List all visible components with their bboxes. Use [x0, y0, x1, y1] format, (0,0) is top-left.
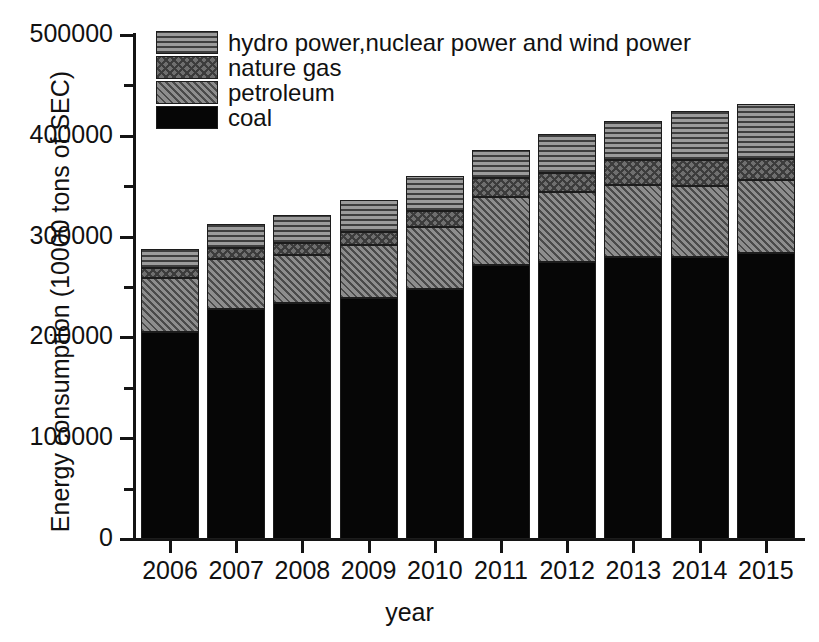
- legend-label: petroleum: [228, 81, 335, 105]
- bar-segment[interactable]: [406, 227, 464, 289]
- bar-segment[interactable]: [141, 268, 199, 278]
- y-axis-tick-minor: [124, 286, 135, 289]
- bar-2013[interactable]: [604, 121, 662, 539]
- legend-item[interactable]: petroleum: [156, 80, 691, 105]
- bar-2011[interactable]: [472, 150, 530, 539]
- y-axis-tick-minor: [124, 84, 135, 87]
- bar-segment[interactable]: [273, 243, 331, 255]
- bar-segment[interactable]: [340, 245, 398, 298]
- bar-2010[interactable]: [406, 176, 464, 539]
- bar-segment[interactable]: [207, 224, 265, 248]
- bar-segment[interactable]: [273, 215, 331, 243]
- y-axis-tick-minor: [124, 387, 135, 390]
- y-axis-tick-label: 200000: [30, 321, 113, 350]
- bar-segment[interactable]: [472, 150, 530, 178]
- y-axis-tick-major: [120, 336, 135, 339]
- x-axis-tick-label: 2015: [721, 556, 811, 585]
- legend-item[interactable]: hydro power,nuclear power and wind power: [156, 30, 691, 55]
- y-axis-tick-label: 400000: [30, 120, 113, 149]
- bar-segment[interactable]: [207, 309, 265, 539]
- legend-item[interactable]: nature gas: [156, 55, 691, 80]
- y-axis-tick-minor: [124, 185, 135, 188]
- bar-segment[interactable]: [273, 303, 331, 539]
- x-axis-tick: [632, 540, 635, 553]
- bar-segment[interactable]: [737, 180, 795, 253]
- x-axis-tick: [566, 540, 569, 553]
- bar-segment[interactable]: [737, 159, 795, 180]
- y-axis-tick-label: 500000: [30, 19, 113, 48]
- legend-label: nature gas: [228, 56, 341, 80]
- bar-2008[interactable]: [273, 215, 331, 539]
- bar-segment[interactable]: [604, 257, 662, 539]
- x-axis-tick: [235, 540, 238, 553]
- bar-2006[interactable]: [141, 249, 199, 539]
- bar-segment[interactable]: [604, 185, 662, 257]
- bar-segment[interactable]: [141, 332, 199, 539]
- legend-item[interactable]: coal: [156, 105, 691, 130]
- bar-segment[interactable]: [472, 265, 530, 539]
- x-axis-tick: [169, 540, 172, 553]
- legend-swatch-icon: [156, 81, 218, 104]
- bar-segment[interactable]: [737, 253, 795, 539]
- bar-segment[interactable]: [207, 259, 265, 309]
- bar-segment[interactable]: [671, 257, 729, 539]
- bar-segment[interactable]: [538, 134, 596, 173]
- y-axis-tick-major: [120, 236, 135, 239]
- bar-segment[interactable]: [406, 289, 464, 539]
- bar-2015[interactable]: [737, 104, 795, 539]
- bar-segment[interactable]: [340, 200, 398, 232]
- bar-segment[interactable]: [737, 104, 795, 159]
- legend-swatch-icon: [156, 31, 218, 54]
- bar-segment[interactable]: [671, 160, 729, 186]
- bar-segment[interactable]: [340, 298, 398, 539]
- bar-2012[interactable]: [538, 134, 596, 539]
- bar-segment[interactable]: [472, 197, 530, 265]
- y-axis-tick-major: [120, 135, 135, 138]
- y-axis-tick-major: [120, 437, 135, 440]
- x-axis-tick: [699, 540, 702, 553]
- bar-segment[interactable]: [472, 178, 530, 197]
- legend-swatch-icon: [156, 106, 218, 129]
- bar-segment[interactable]: [141, 278, 199, 332]
- legend-swatch-icon: [156, 56, 218, 79]
- bar-segment[interactable]: [538, 173, 596, 192]
- y-axis-tick-major: [120, 538, 135, 541]
- bar-2014[interactable]: [671, 111, 729, 539]
- bar-segment[interactable]: [141, 249, 199, 268]
- x-axis-tick: [434, 540, 437, 553]
- legend: hydro power,nuclear power and wind power…: [156, 30, 691, 130]
- x-axis-tick: [500, 540, 503, 553]
- bar-segment[interactable]: [340, 232, 398, 245]
- x-axis-tick: [765, 540, 768, 553]
- y-axis-tick-label: 100000: [30, 422, 113, 451]
- bar-segment[interactable]: [604, 160, 662, 185]
- legend-label: coal: [228, 106, 272, 130]
- y-axis-tick-major: [120, 34, 135, 37]
- legend-label: hydro power,nuclear power and wind power: [228, 31, 691, 55]
- y-axis-tick-label: 0: [99, 523, 113, 552]
- bar-2007[interactable]: [207, 224, 265, 539]
- y-axis-tick-label: 300000: [30, 221, 113, 250]
- bar-2009[interactable]: [340, 200, 398, 539]
- bar-segment[interactable]: [538, 192, 596, 262]
- y-axis-tick-minor: [124, 488, 135, 491]
- bar-segment[interactable]: [406, 176, 464, 211]
- x-axis-tick: [368, 540, 371, 553]
- bar-segment[interactable]: [671, 186, 729, 257]
- x-axis-tick: [301, 540, 304, 553]
- bar-segment[interactable]: [538, 262, 596, 539]
- bar-segment[interactable]: [273, 255, 331, 303]
- bar-segment[interactable]: [207, 248, 265, 259]
- bar-segment[interactable]: [406, 211, 464, 227]
- energy-consumption-stacked-bar-chart: Energy consumption (10000 tons of SEC) y…: [0, 0, 819, 642]
